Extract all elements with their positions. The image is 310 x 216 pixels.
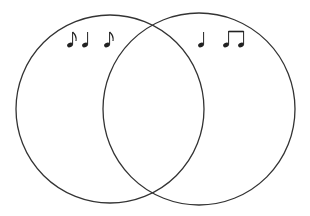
- eighth-note-icon: [103, 32, 113, 48]
- venn-diagram: [0, 0, 310, 216]
- right-circle: [103, 13, 295, 205]
- beamed-eighth-notes-icon: [222, 31, 244, 48]
- quarter-note-icon: [197, 32, 204, 48]
- eighth-note-icon: [66, 32, 76, 48]
- quarter-note-icon: [81, 32, 88, 48]
